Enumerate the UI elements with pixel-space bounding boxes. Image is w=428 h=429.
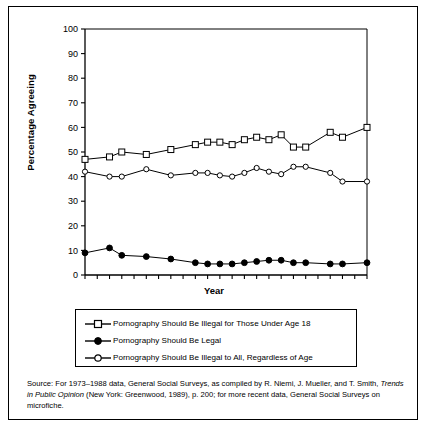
line-chart-plot: 0102030405060708090100197319751977197919…: [9, 7, 419, 282]
x-axis-label: Year: [9, 285, 419, 296]
svg-text:0: 0: [73, 270, 78, 280]
svg-text:20: 20: [68, 221, 78, 231]
chart-legend: Pornography Should Be Illegal for Those …: [75, 309, 357, 367]
legend-item: Pornography Should Be Illegal to All, Re…: [76, 349, 356, 366]
legend-item: Pornography Should Be Illegal for Those …: [76, 315, 356, 332]
svg-text:50: 50: [68, 147, 78, 157]
source-note: Source: For 1973–1988 data, General Soci…: [27, 379, 405, 411]
open-diamond-icon: [85, 351, 111, 365]
svg-text:30: 30: [68, 196, 78, 206]
source-text-part1: Source: For 1973–1988 data, General Soci…: [27, 379, 381, 388]
svg-text:10: 10: [68, 246, 78, 256]
figure-panel: Percentage Agreeing 01020304050607080901…: [8, 6, 418, 420]
svg-text:100: 100: [63, 24, 78, 34]
svg-text:70: 70: [68, 98, 78, 108]
legend-item-label: Pornography Should Be Illegal for Those …: [111, 319, 310, 328]
svg-text:40: 40: [68, 172, 78, 182]
legend-item-label: Pornography Should Be Illegal to All, Re…: [111, 353, 313, 362]
legend-item-label: Pornography Should Be Legal: [111, 336, 221, 345]
open-square-icon: [85, 317, 111, 331]
svg-text:90: 90: [68, 49, 78, 59]
svg-text:60: 60: [68, 123, 78, 133]
chart-area: Percentage Agreeing 01020304050607080901…: [9, 7, 419, 295]
legend-item: Pornography Should Be Legal: [76, 332, 356, 349]
filled-circle-icon: [85, 334, 111, 348]
svg-text:80: 80: [68, 73, 78, 83]
